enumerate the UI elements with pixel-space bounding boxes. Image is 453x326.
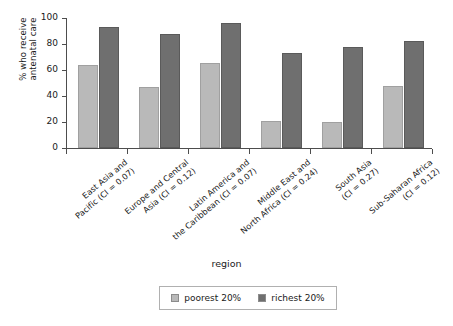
legend-swatch-icon — [258, 294, 266, 302]
y-axis-tick: 20 — [32, 122, 66, 123]
bar-richest — [221, 23, 241, 148]
y-axis-tick-mark — [62, 18, 66, 19]
bar-poorest — [139, 87, 159, 148]
y-axis-tick-mark — [62, 70, 66, 71]
y-axis-tick-mark — [62, 44, 66, 45]
y-axis-tick: 0 — [32, 148, 66, 149]
y-axis-title-line1: % who receive — [18, 17, 29, 80]
y-axis-title-line2: antenatal care — [28, 17, 39, 80]
bar-poorest — [261, 121, 281, 148]
y-axis-tick-label: 0 — [52, 142, 58, 153]
bar-poorest — [383, 86, 403, 148]
bar-richest — [282, 53, 302, 148]
bar-poorest — [322, 122, 342, 148]
x-axis-tick-mark — [371, 149, 372, 154]
y-axis-line — [66, 18, 67, 149]
x-axis-tick-mark — [249, 149, 250, 154]
y-axis-tick-label: 80 — [47, 38, 58, 49]
y-axis-tick-label: 100 — [41, 12, 58, 23]
bar-chart-figure: % who receive antenatal care 02040608010… — [0, 0, 453, 326]
x-axis-tick-mark — [188, 149, 189, 154]
x-axis-title: region — [0, 258, 453, 269]
chart-legend: poorest 20%richest 20% — [159, 286, 337, 310]
x-axis-tick-mark — [66, 149, 67, 154]
legend-label: poorest 20% — [184, 293, 241, 303]
x-axis-tick-mark — [127, 149, 128, 154]
legend-entry-poorest[interactable]: poorest 20% — [171, 293, 241, 303]
x-axis-tick-mark — [432, 149, 433, 154]
y-axis-tick-mark — [62, 122, 66, 123]
legend-entry-richest[interactable]: richest 20% — [258, 293, 324, 303]
y-axis-tick-label: 20 — [47, 116, 58, 127]
bar-richest — [404, 41, 424, 148]
legend-label: richest 20% — [271, 293, 324, 303]
bar-poorest — [78, 65, 98, 148]
y-axis-tick: 80 — [32, 44, 66, 45]
bar-richest — [99, 27, 119, 148]
y-axis-tick: 60 — [32, 70, 66, 71]
plot-area: 020406080100 — [66, 18, 432, 148]
y-axis-tick-label: 60 — [47, 64, 58, 75]
bar-richest — [343, 47, 363, 148]
bar-richest — [160, 34, 180, 148]
bar-poorest — [200, 63, 220, 148]
legend-swatch-icon — [171, 294, 179, 302]
y-axis-tick-mark — [62, 96, 66, 97]
y-axis-tick-label: 40 — [47, 90, 58, 101]
x-axis-tick-mark — [310, 149, 311, 154]
y-axis-tick: 40 — [32, 96, 66, 97]
y-axis-tick: 100 — [32, 18, 66, 19]
